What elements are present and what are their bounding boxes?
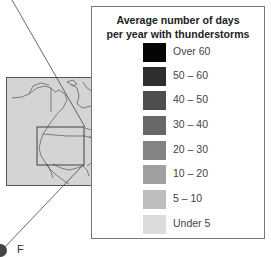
footer-text: F: [17, 243, 24, 255]
